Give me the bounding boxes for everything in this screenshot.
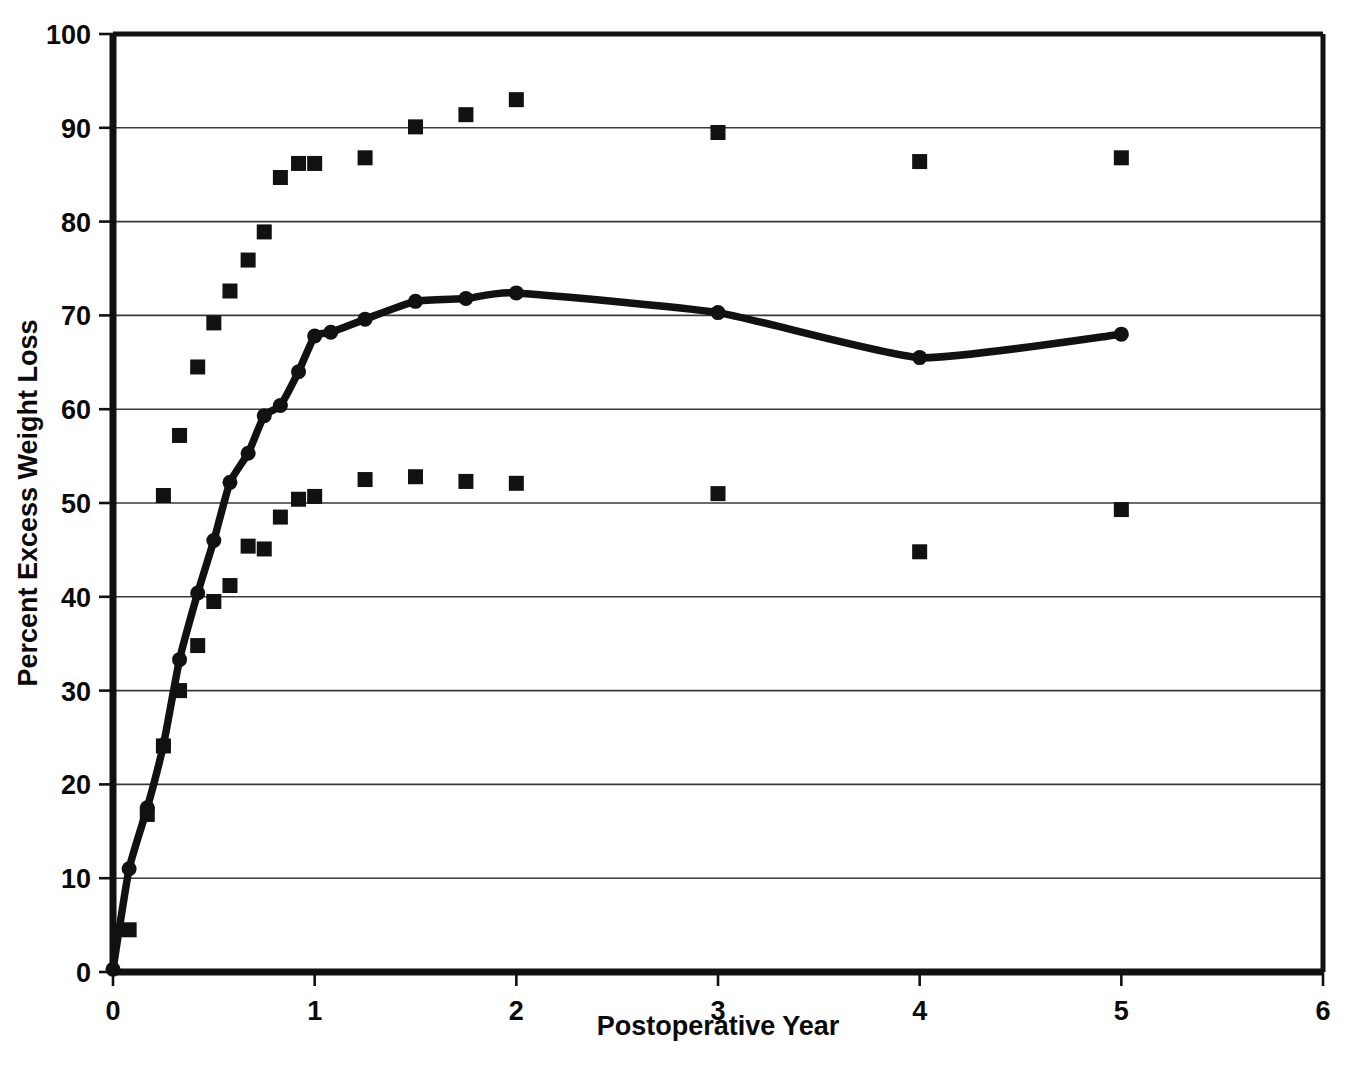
- data-point-square-lower: [273, 510, 288, 525]
- data-point-circle-mean: [458, 291, 473, 306]
- y-tick-label: 70: [61, 301, 91, 331]
- data-point-circle-mean: [273, 398, 288, 413]
- data-point-square-upper: [190, 359, 205, 374]
- data-point-square-upper: [912, 154, 927, 169]
- data-point-circle-mean: [323, 325, 338, 340]
- data-point-circle-mean: [140, 800, 155, 815]
- data-point-square-upper: [241, 253, 256, 268]
- y-tick-label: 40: [61, 583, 91, 613]
- data-point-square-upper: [711, 125, 726, 140]
- x-tick-label: 0: [105, 996, 120, 1026]
- data-point-square-lower: [912, 544, 927, 559]
- data-point-square-upper: [156, 488, 171, 503]
- y-tick-label: 100: [46, 20, 91, 50]
- y-tick-label: 80: [61, 208, 91, 238]
- data-point-square-lower: [509, 476, 524, 491]
- data-point-square-lower: [711, 486, 726, 501]
- data-point-circle-mean: [291, 364, 306, 379]
- data-point-square-lower: [291, 492, 306, 507]
- data-point-square-lower: [1114, 502, 1129, 517]
- chart-canvas: 0102030405060708090100 0123456 Postopera…: [0, 0, 1353, 1076]
- x-tick-label: 6: [1315, 996, 1330, 1026]
- y-axis-title: Percent Excess Weight Loss: [13, 319, 43, 686]
- data-point-circle-mean: [241, 446, 256, 461]
- data-point-circle-mean: [408, 294, 423, 309]
- y-tick-label: 0: [76, 958, 91, 988]
- data-point-square-upper: [408, 119, 423, 134]
- data-point-square-lower: [241, 539, 256, 554]
- chart-background: [0, 0, 1353, 1076]
- x-tick-label: 2: [509, 996, 524, 1026]
- figure-container: 0102030405060708090100 0123456 Postopera…: [0, 0, 1353, 1076]
- data-point-circle-mean: [257, 408, 272, 423]
- data-point-circle-mean: [190, 586, 205, 601]
- data-point-square-lower: [190, 638, 205, 653]
- data-point-square-upper: [273, 170, 288, 185]
- data-point-circle-mean: [509, 285, 524, 300]
- data-point-square-lower: [206, 594, 221, 609]
- data-point-square-lower: [358, 472, 373, 487]
- data-point-square-lower: [408, 469, 423, 484]
- y-tick-label: 60: [61, 395, 91, 425]
- data-point-circle-mean: [222, 475, 237, 490]
- data-point-circle-mean: [1114, 327, 1129, 342]
- data-point-square-lower: [307, 489, 322, 504]
- data-point-square-upper: [206, 315, 221, 330]
- x-axis-title: Postoperative Year: [597, 1011, 840, 1041]
- x-tick-label: 1: [307, 996, 322, 1026]
- data-point-square-lower: [458, 474, 473, 489]
- data-point-square-upper: [458, 107, 473, 122]
- x-tick-label: 5: [1114, 996, 1129, 1026]
- data-point-circle-mean: [122, 861, 137, 876]
- y-tick-label: 90: [61, 114, 91, 144]
- data-point-circle-mean: [172, 652, 187, 667]
- data-point-square-upper: [1114, 150, 1129, 165]
- y-tick-label: 20: [61, 770, 91, 800]
- data-point-square-upper: [257, 224, 272, 239]
- data-point-square-upper: [509, 92, 524, 107]
- data-point-square-lower: [257, 541, 272, 556]
- data-point-square-lower: [222, 578, 237, 593]
- data-point-square-upper: [222, 284, 237, 299]
- data-point-circle-mean: [307, 329, 322, 344]
- data-point-square-upper: [307, 156, 322, 171]
- data-point-circle-mean: [358, 312, 373, 327]
- data-point-circle-mean: [106, 962, 121, 977]
- data-point-square-upper: [172, 428, 187, 443]
- data-point-circle-mean: [156, 738, 171, 753]
- data-point-circle-mean: [206, 533, 221, 548]
- data-point-circle-mean: [912, 350, 927, 365]
- y-tick-label: 50: [61, 489, 91, 519]
- data-point-square-upper: [291, 156, 306, 171]
- y-tick-label: 30: [61, 677, 91, 707]
- x-tick-label: 4: [912, 996, 927, 1026]
- data-point-circle-mean: [711, 305, 726, 320]
- y-tick-label: 10: [61, 864, 91, 894]
- data-point-square-lower: [122, 922, 137, 937]
- data-point-square-upper: [358, 150, 373, 165]
